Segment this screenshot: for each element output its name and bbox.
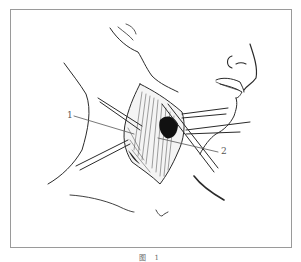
upper-lip (216, 78, 244, 92)
callout-label-1: 1 (67, 111, 73, 120)
clavicle-line (70, 195, 134, 212)
sternal-notch (156, 210, 168, 216)
lower-lip (220, 84, 242, 98)
ear-inner (118, 24, 136, 40)
figure-caption: 图 1 (0, 252, 301, 262)
retractor-right-1 (182, 108, 228, 118)
nostril (228, 56, 247, 68)
ear-outline (110, 28, 178, 92)
retractor-lower-left (76, 140, 130, 170)
retractor-right-2 (186, 122, 250, 134)
nose-outline (244, 44, 257, 90)
neck-back (48, 63, 89, 184)
neck-front (194, 176, 224, 200)
callout-label-2: 2 (221, 147, 227, 156)
